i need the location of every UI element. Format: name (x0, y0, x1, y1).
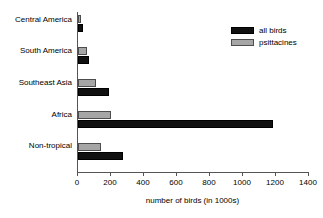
y-axis-label-south-america: South America (20, 46, 72, 56)
x-axis-tick-200 (110, 172, 111, 176)
legend-swatch-all-birds-icon (231, 27, 254, 34)
x-axis-line (77, 172, 308, 173)
y-axis-label-africa: Africa (52, 110, 72, 120)
x-axis-tick-1000 (242, 172, 243, 176)
bar-psittacines-southeast-asia (78, 79, 96, 87)
y-axis-label-non-tropical: Non-tropical (29, 141, 72, 151)
chart-legend: all birds psittacines (231, 25, 297, 49)
legend-label-all-birds: all birds (259, 26, 287, 36)
bar-psittacines-south-america (78, 47, 87, 55)
bar-all-birds-non-tropical (78, 152, 123, 160)
x-axis-tick-label-1400: 1400 (288, 178, 323, 188)
bar-chart: Central America South America Southeast … (0, 0, 323, 218)
legend-swatch-psittacines-icon (231, 39, 254, 46)
bar-all-birds-africa (78, 120, 273, 128)
y-axis-label-central-america: Central America (15, 15, 72, 25)
y-axis-label-southeast-asia: Southeast Asia (19, 78, 72, 88)
bar-all-birds-central-america (78, 24, 83, 32)
x-axis-title: number of birds (in 1000s) (77, 196, 308, 206)
legend-item-all-birds: all birds (231, 25, 297, 36)
x-axis-tick-600 (176, 172, 177, 176)
x-axis-tick-400 (143, 172, 144, 176)
bar-all-birds-south-america (78, 56, 89, 64)
legend-label-psittacines: psittacines (259, 38, 297, 48)
bar-all-birds-southeast-asia (78, 88, 109, 96)
x-axis-tick-1200 (275, 172, 276, 176)
bar-psittacines-central-america (78, 15, 81, 23)
legend-item-psittacines: psittacines (231, 37, 297, 48)
bar-psittacines-africa (78, 111, 111, 119)
x-axis-tick-800 (209, 172, 210, 176)
x-axis-tick-0 (77, 172, 78, 176)
bar-psittacines-non-tropical (78, 143, 101, 151)
x-axis-tick-1400 (308, 172, 309, 176)
